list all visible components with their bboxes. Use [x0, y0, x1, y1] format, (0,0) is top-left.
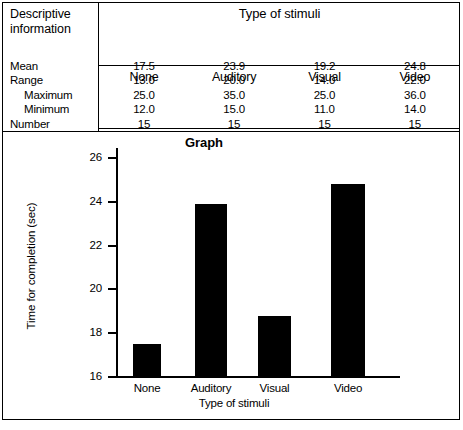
x-axis-title: Type of stimuli	[116, 397, 352, 409]
table-row: Mean 17.5 23.9 19.2 24.8	[2, 59, 460, 73]
bar-video	[331, 184, 365, 377]
y-axis-tick-label: 22	[68, 239, 102, 251]
figure-container: Descriptive information Type of stimuli …	[0, 0, 463, 430]
table-body-section: Mean 17.5 23.9 19.2 24.8 Range 13.0 20.0…	[2, 56, 460, 129]
row-label-minimum: Minimum	[2, 102, 99, 116]
chart-title: Graph	[0, 135, 434, 150]
descriptive-statistics-table: Descriptive information Type of stimuli …	[2, 2, 460, 129]
cell-range-none: 13.0	[99, 73, 189, 87]
cell-range-auditory: 20.0	[189, 73, 279, 87]
cell-mean-video: 24.8	[370, 59, 460, 73]
bar-chart: Graph Time for completion (sec) 16182022…	[2, 129, 460, 420]
row-header-line1: Descriptive	[10, 7, 98, 22]
cell-maximum-video: 36.0	[370, 88, 460, 102]
y-axis-tick-label: 16	[68, 370, 102, 382]
cell-maximum-none: 25.0	[99, 88, 189, 102]
y-axis-tick	[108, 332, 117, 334]
x-axis-label-video: Video	[303, 382, 393, 394]
cell-range-video: 22.0	[370, 73, 460, 87]
cell-mean-auditory: 23.9	[189, 59, 279, 73]
y-axis-tick-label: 20	[68, 282, 102, 294]
cell-maximum-visual: 25.0	[279, 88, 369, 102]
y-axis-line	[116, 148, 118, 378]
y-axis-tick-label: 24	[68, 195, 102, 207]
row-label-mean: Mean	[2, 59, 99, 73]
table-body: Mean 17.5 23.9 19.2 24.8 Range 13.0 20.0…	[2, 56, 460, 132]
cell-minimum-none: 12.0	[99, 102, 189, 116]
bar-auditory	[195, 204, 227, 377]
y-axis-tick	[108, 201, 117, 203]
cell-minimum-auditory: 15.0	[189, 102, 279, 116]
cell-minimum-visual: 11.0	[279, 102, 369, 116]
row-label-range: Range	[2, 73, 99, 87]
bar-visual	[258, 316, 291, 377]
bar-none	[133, 344, 161, 377]
y-axis-tick	[108, 245, 117, 247]
y-axis-title: Time for completion (sec)	[25, 186, 37, 346]
cell-mean-none: 17.5	[99, 59, 189, 73]
cell-range-visual: 14.0	[279, 73, 369, 87]
y-axis-tick	[108, 288, 117, 290]
y-axis-tick	[108, 376, 117, 378]
cell-mean-visual: 19.2	[279, 59, 369, 73]
table-row: Minimum 12.0 15.0 11.0 14.0	[2, 102, 460, 116]
y-axis-tick-label: 26	[68, 151, 102, 163]
table-row: Range 13.0 20.0 14.0 22.0	[2, 73, 460, 87]
cell-maximum-auditory: 35.0	[189, 88, 279, 102]
table-row: Maximum 25.0 35.0 25.0 36.0	[2, 88, 460, 102]
y-axis-tick	[108, 157, 117, 159]
y-axis-tick-label: 18	[68, 326, 102, 338]
row-label-maximum: Maximum	[2, 88, 99, 102]
row-header-line2: information	[10, 22, 98, 37]
cell-minimum-video: 14.0	[370, 102, 460, 116]
